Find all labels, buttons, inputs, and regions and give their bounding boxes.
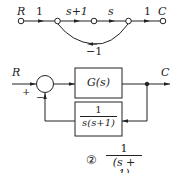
bd-feedback-denominator: s(s+1) <box>80 116 117 128</box>
sfg-feedback-gain: −1 <box>86 46 102 57</box>
answer-marker: ② <box>86 154 97 166</box>
sfg-node-c-label: C <box>158 6 166 17</box>
bd-plus-sign: + <box>22 87 30 97</box>
sfg-gain-3: s <box>108 6 114 17</box>
sfg-gain-4: 1 <box>144 6 151 17</box>
sfg-gain-2: s+1 <box>66 6 88 17</box>
sfg-node-r-label: R <box>17 6 25 17</box>
bd-minus-sign: − <box>36 93 44 103</box>
bd-forward-block-label: G(s) <box>87 77 110 88</box>
sfg-gain-1: 1 <box>36 6 43 17</box>
signal-flow-graph <box>18 18 166 44</box>
bd-input-label: R <box>12 67 20 78</box>
bd-feedback-block-tf: 1 s(s+1) <box>80 105 117 128</box>
bd-feedback-numerator: 1 <box>80 105 117 116</box>
answer-denominator: (s + 1) <box>106 155 142 173</box>
answer-numerator: 1 <box>106 143 142 155</box>
bd-output-label: C <box>161 67 169 78</box>
answer-fraction: 1 (s + 1) <box>106 143 142 173</box>
